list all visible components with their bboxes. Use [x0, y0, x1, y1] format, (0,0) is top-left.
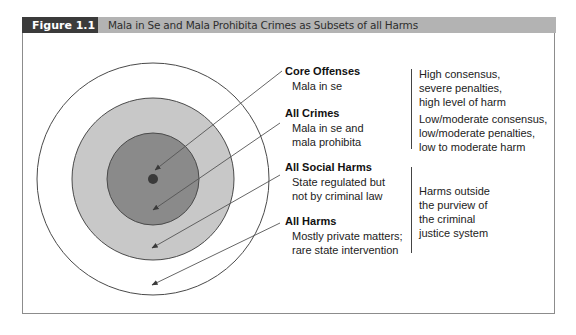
description-line: the purview of: [419, 198, 490, 212]
label-all-harms: All Harms Mostly private matters; rare s…: [285, 214, 403, 258]
description-line: Low/moderate consensus,: [419, 112, 547, 126]
description-line: low/moderate penalties,: [419, 126, 547, 140]
description-crimes: Low/moderate consensus, low/moderate pen…: [419, 112, 547, 154]
description-line: justice system: [419, 226, 490, 240]
bracket-line-non-crimes: [411, 167, 412, 253]
description-non-crimes: Harms outside the purview of the crimina…: [419, 184, 490, 240]
description-line: the criminal: [419, 212, 490, 226]
category-detail: Mostly private matters;: [285, 229, 403, 244]
category-detail: not by criminal law: [285, 189, 385, 204]
label-core-offenses: Core Offenses Mala in se: [285, 64, 360, 93]
category-detail: Mala in se: [285, 79, 360, 94]
label-all-social-harms: All Social Harms State regulated but not…: [285, 160, 385, 204]
category-detail: mala prohibita: [285, 135, 364, 150]
description-line: severe penalties,: [419, 81, 506, 95]
description-line: Harms outside: [419, 184, 490, 198]
category-detail: Mala in se and: [285, 121, 364, 136]
core-offenses-dot: [148, 174, 158, 184]
category-title: Core Offenses: [285, 64, 360, 79]
description-line: high level of harm: [419, 95, 506, 109]
label-all-crimes: All Crimes Mala in se and mala prohibita: [285, 106, 364, 150]
description-line: High consensus,: [419, 67, 506, 81]
category-title: All Social Harms: [285, 160, 385, 175]
category-title: All Crimes: [285, 106, 364, 121]
description-core: High consensus, severe penalties, high l…: [419, 67, 506, 109]
bracket-line-crimes: [411, 69, 412, 149]
category-title: All Harms: [285, 214, 403, 229]
category-detail: State regulated but: [285, 175, 385, 190]
description-line: low to moderate harm: [419, 140, 547, 154]
category-detail: rare state intervention: [285, 243, 403, 258]
